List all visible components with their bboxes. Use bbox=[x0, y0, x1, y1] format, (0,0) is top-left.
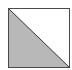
diagonal-split-square-icon bbox=[8, 8, 70, 68]
split-square-graphic bbox=[8, 8, 70, 68]
